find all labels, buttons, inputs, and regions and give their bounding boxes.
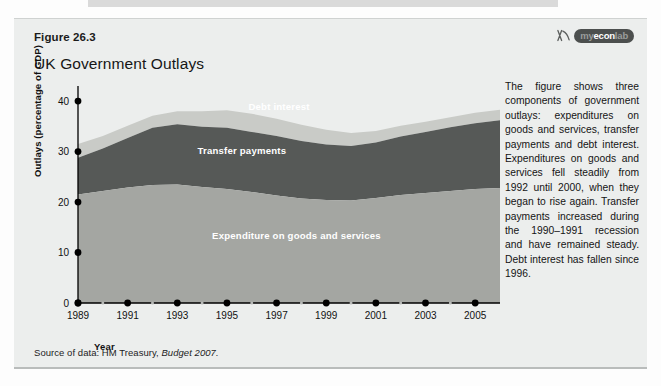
y-tick-label: 20	[58, 197, 70, 208]
x-tick-marker	[372, 300, 379, 307]
logo-text-mid: econ	[593, 30, 614, 41]
y-tick-label: 0	[63, 298, 69, 309]
x-tick-marker	[472, 300, 479, 307]
stacked-area-chart: 0102030401989199119931995199719992001200…	[34, 85, 504, 355]
x-minor-tick-marker	[151, 302, 154, 305]
series-inline-label: Transfer payments	[197, 145, 286, 156]
y-tick-label: 10	[58, 247, 70, 258]
x-minor-tick-marker	[300, 302, 303, 305]
figure-page: UK Government Budget Balance and Debt Fi…	[0, 0, 661, 386]
source-note: Source of data: HM Treasury, Budget 2007…	[34, 347, 219, 358]
y-tick-label: 30	[58, 146, 70, 157]
figure-number: Figure 26.3	[34, 31, 96, 43]
x-tick-marker	[124, 300, 131, 307]
x-tick-label: 1999	[315, 310, 338, 321]
myeconlab-logo[interactable]: myeconlab	[556, 27, 634, 44]
myeconlab-wordmark: myeconlab	[574, 29, 634, 43]
x-tick-marker	[323, 300, 330, 307]
x-tick-label: 2001	[365, 310, 388, 321]
y-tick-marker	[75, 199, 82, 206]
logo-text-prefix: my	[580, 30, 593, 41]
y-axis-title: Outlays (percentage of GDP)	[32, 45, 43, 177]
y-tick-label: 40	[58, 96, 70, 107]
x-tick-marker	[224, 300, 231, 307]
series-inline-label: Expenditure on goods and services	[212, 230, 381, 241]
x-minor-tick-marker	[250, 302, 253, 305]
source-title-italic: Budget 2007.	[161, 347, 218, 358]
x-minor-tick-marker	[399, 302, 402, 305]
myeconlab-swoosh-icon	[556, 28, 571, 43]
chart-container: Outlays (percentage of GDP) Year 0102030…	[34, 85, 504, 355]
area-band	[78, 184, 500, 303]
x-tick-label: 1997	[265, 310, 288, 321]
x-minor-tick-marker	[350, 302, 353, 305]
x-tick-label: 2005	[464, 310, 487, 321]
x-tick-label: 1991	[117, 310, 140, 321]
y-tick-marker	[75, 98, 82, 105]
x-minor-tick-marker	[201, 302, 204, 305]
figure-caption: The figure shows three components of gov…	[505, 80, 639, 282]
x-tick-label: 2003	[414, 310, 437, 321]
x-tick-label: 1993	[166, 310, 189, 321]
figure-title: UK Government Outlays	[34, 55, 204, 73]
x-minor-tick-marker	[101, 302, 104, 305]
x-minor-tick-marker	[449, 302, 452, 305]
logo-text-suffix: lab	[615, 30, 628, 41]
series-inline-label: Debt interest	[248, 101, 310, 112]
y-tick-marker	[75, 249, 82, 256]
x-tick-marker	[273, 300, 280, 307]
y-tick-marker	[75, 148, 82, 155]
x-tick-marker	[174, 300, 181, 307]
x-tick-marker	[75, 300, 82, 307]
page-bleed-bar	[88, 0, 558, 7]
x-tick-label: 1989	[67, 310, 90, 321]
x-tick-label: 1995	[216, 310, 239, 321]
x-tick-marker	[422, 300, 429, 307]
source-text: Source of data: HM Treasury,	[34, 347, 159, 358]
